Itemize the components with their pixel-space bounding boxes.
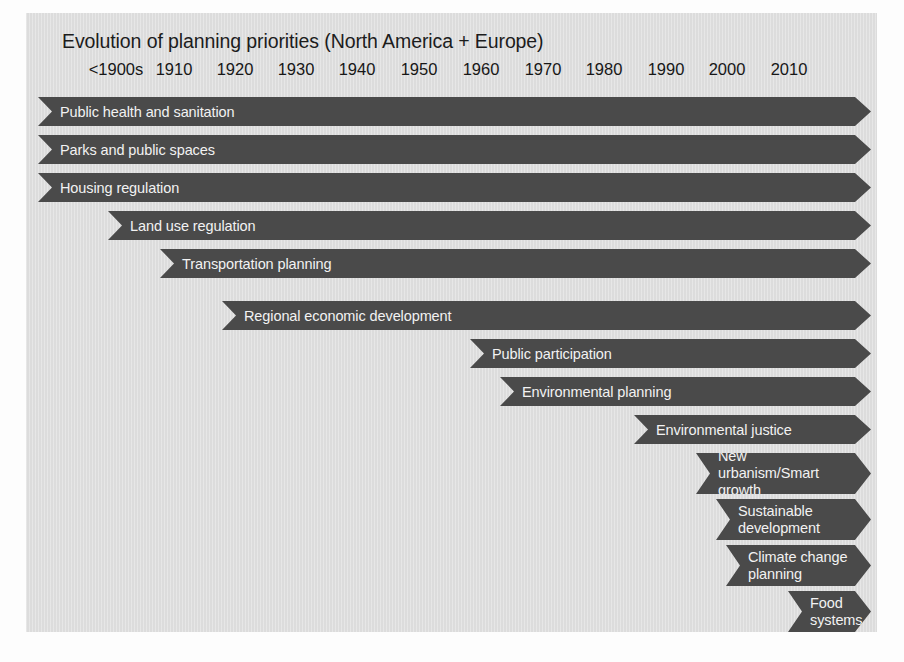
timeline-bars: Public health and sanitationParks and pu…: [26, 13, 877, 632]
timeline-bar: Environmental planning: [500, 377, 871, 406]
timeline-figure: Evolution of planning priorities (North …: [0, 0, 904, 662]
timeline-bar: Regional economic development: [222, 301, 871, 330]
timeline-bar: Housing regulation: [38, 173, 871, 202]
timeline-bar-label: Environmental planning: [500, 384, 691, 400]
timeline-bar-label: Food systems: [788, 595, 877, 629]
timeline-bar-label: New urbanism/Smart growth: [696, 448, 871, 499]
timeline-bar: Public health and sanitation: [38, 97, 871, 126]
timeline-bar-label: Public health and sanitation: [38, 104, 255, 120]
timeline-bar: New urbanism/Smart growth: [696, 453, 871, 494]
timeline-bar-label: Regional economic development: [222, 308, 471, 324]
timeline-bar-label: Sustainable development: [716, 503, 840, 537]
timeline-bar-label: Environmental justice: [634, 422, 812, 438]
timeline-bar: Public participation: [470, 339, 871, 368]
timeline-bar: Food systems: [788, 591, 871, 632]
timeline-bar-label: Public participation: [470, 346, 632, 362]
timeline-bar-label: Transportation planning: [160, 256, 352, 272]
timeline-bar: Environmental justice: [634, 415, 871, 444]
timeline-bar-label: Parks and public spaces: [38, 142, 235, 158]
timeline-bar: Transportation planning: [160, 249, 871, 278]
timeline-bar: Land use regulation: [108, 211, 871, 240]
timeline-bar-label: Land use regulation: [108, 218, 275, 234]
timeline-bar-label: Climate change planning: [726, 549, 867, 583]
timeline-bar-label: Housing regulation: [38, 180, 199, 196]
timeline-bar: Climate change planning: [726, 545, 871, 586]
timeline-bar: Parks and public spaces: [38, 135, 871, 164]
timeline-bar: Sustainable development: [716, 499, 871, 540]
chart-panel: Evolution of planning priorities (North …: [26, 13, 877, 632]
